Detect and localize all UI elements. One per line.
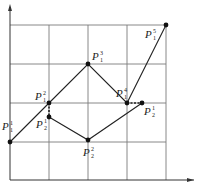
point-labels: P11P21P31P41P51P12P12P22 (1, 28, 156, 159)
point-P2_2 (47, 115, 52, 120)
svg-text:1: 1 (10, 120, 13, 126)
svg-text:5: 5 (153, 28, 156, 34)
svg-text:2: 2 (152, 112, 155, 118)
svg-text:4: 4 (124, 87, 127, 93)
p2-trajectory (49, 103, 142, 140)
svg-text:2: 2 (44, 125, 47, 131)
x-axis-arrow-icon (187, 178, 194, 182)
label-P1_1: P (1, 120, 9, 132)
svg-text:1: 1 (124, 94, 127, 100)
label-P1_5: P (144, 28, 152, 40)
point-P1_1 (8, 140, 13, 145)
svg-text:1: 1 (152, 105, 155, 111)
svg-text:1: 1 (100, 57, 103, 63)
point-P1_2 (47, 101, 52, 106)
svg-text:1: 1 (44, 118, 47, 124)
point-P1_4 (125, 101, 130, 106)
svg-text:1: 1 (10, 127, 13, 133)
svg-text:2: 2 (43, 90, 46, 96)
point-P1_5 (164, 23, 169, 28)
label-P2_3: P (82, 146, 90, 158)
label-P1_4: P (115, 87, 123, 99)
point-P1_3 (86, 62, 91, 67)
label-P2_2: P (35, 118, 43, 130)
y-axis-arrow-icon (8, 4, 12, 11)
svg-text:2: 2 (91, 153, 94, 159)
svg-text:3: 3 (100, 50, 103, 56)
trajectory-diagram: P11P21P31P41P51P12P12P22 (0, 0, 201, 195)
label-P1_2: P (34, 90, 42, 102)
svg-text:1: 1 (43, 97, 46, 103)
point-P2_3 (86, 138, 91, 143)
svg-text:1: 1 (153, 35, 156, 41)
label-P2_1: P (143, 105, 151, 117)
label-P1_3: P (91, 50, 99, 62)
svg-text:2: 2 (91, 146, 94, 152)
